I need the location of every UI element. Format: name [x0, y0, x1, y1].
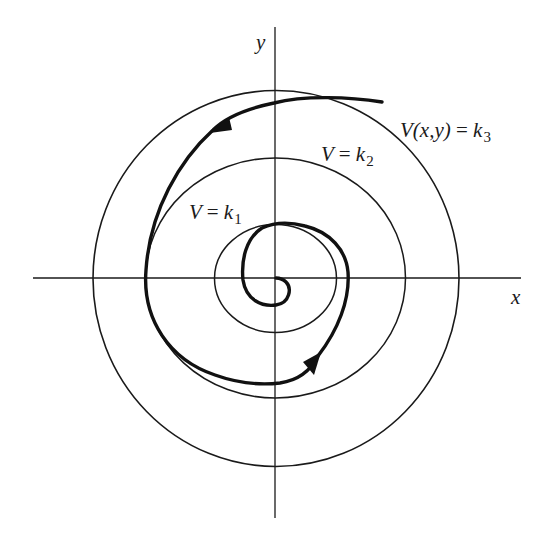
x-axis-label: x [511, 287, 520, 308]
label-lhs: V [321, 142, 333, 166]
label-lhs: V(x,y) [400, 118, 451, 142]
level-curve-label-k2: V = k2 [321, 144, 374, 165]
level-curve-label-k1: V = k1 [189, 202, 242, 223]
label-subscript: 3 [483, 129, 491, 145]
label-k: k [224, 200, 233, 224]
label-op: = [339, 142, 351, 166]
y-axis-label: y [256, 32, 265, 53]
label-subscript: 2 [366, 153, 374, 169]
label-op: = [456, 118, 468, 142]
level-curve-label-k3: V(x,y) = k3 [400, 120, 491, 141]
label-subscript: 1 [234, 211, 242, 227]
trajectory-arrow-icon [210, 117, 232, 133]
phase-portrait-diagram [0, 0, 547, 538]
label-k: k [356, 142, 365, 166]
label-k: k [473, 118, 482, 142]
label-op: = [207, 200, 219, 224]
label-lhs: V [189, 200, 201, 224]
trajectory-curve [146, 98, 382, 384]
